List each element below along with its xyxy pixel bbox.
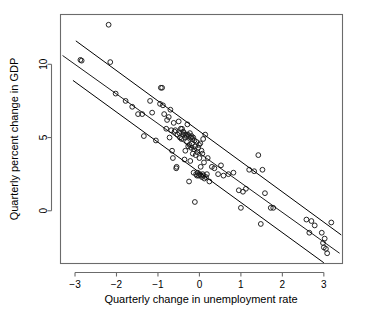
data-point bbox=[304, 217, 309, 222]
data-point bbox=[325, 251, 330, 256]
x-tick-label: 3 bbox=[321, 279, 327, 290]
data-point bbox=[187, 179, 192, 184]
scatter-plot-figure: −3−2−10123 0510 Quarterly change in unem… bbox=[0, 0, 366, 320]
data-point bbox=[167, 135, 172, 140]
upper-fit bbox=[76, 41, 341, 235]
y-axis-ticks: 0510 bbox=[38, 58, 51, 213]
data-point bbox=[202, 160, 207, 165]
y-tick-label: 5 bbox=[38, 134, 49, 140]
data-point bbox=[260, 167, 265, 172]
y-axis-title: Quarterly percent change in GDP bbox=[8, 58, 20, 221]
x-tick-label: −2 bbox=[111, 279, 123, 290]
x-tick-label: −1 bbox=[152, 279, 164, 290]
data-point bbox=[150, 110, 155, 115]
data-point bbox=[148, 99, 153, 104]
plot-frame bbox=[61, 15, 343, 264]
x-tick-label: 2 bbox=[280, 279, 286, 290]
data-point bbox=[239, 205, 244, 210]
x-tick-label: 1 bbox=[238, 279, 244, 290]
data-point bbox=[171, 120, 176, 125]
plot-canvas: −3−2−10123 0510 Quarterly change in unem… bbox=[0, 0, 366, 320]
y-tick-label: 10 bbox=[38, 58, 49, 70]
data-point bbox=[231, 170, 236, 175]
data-point bbox=[319, 230, 324, 235]
data-point bbox=[309, 219, 314, 224]
regression-lines bbox=[63, 41, 342, 263]
data-point bbox=[162, 112, 167, 117]
data-point bbox=[216, 172, 221, 177]
data-point bbox=[198, 164, 203, 169]
data-point bbox=[170, 156, 175, 161]
data-point bbox=[106, 22, 111, 27]
x-tick-label: −3 bbox=[69, 279, 81, 290]
middle-fit bbox=[63, 56, 340, 254]
data-point bbox=[192, 200, 197, 205]
data-points bbox=[78, 22, 334, 255]
data-point bbox=[108, 60, 113, 65]
x-axis-title: Quarterly change in unemployment rate bbox=[104, 293, 297, 305]
data-point bbox=[197, 156, 202, 161]
x-tick-label: 0 bbox=[197, 279, 203, 290]
x-axis-ticks: −3−2−10123 bbox=[69, 273, 327, 290]
data-point bbox=[312, 223, 317, 228]
data-point bbox=[322, 236, 327, 241]
data-point bbox=[263, 191, 268, 196]
data-point bbox=[188, 159, 193, 164]
data-point bbox=[256, 153, 261, 158]
data-point bbox=[176, 119, 181, 124]
lower-fit bbox=[73, 80, 324, 262]
data-point bbox=[221, 173, 226, 178]
data-point bbox=[329, 220, 334, 225]
data-point bbox=[258, 222, 263, 227]
data-point bbox=[183, 148, 188, 153]
y-tick-label: 0 bbox=[38, 208, 49, 214]
data-point bbox=[141, 134, 146, 139]
